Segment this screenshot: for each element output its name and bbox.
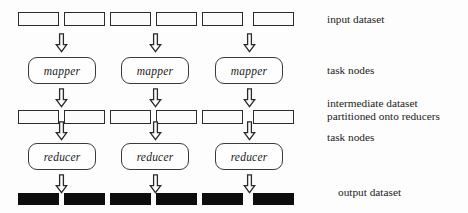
input-block bbox=[253, 12, 294, 26]
intermediate-block bbox=[253, 110, 294, 124]
intermediate-block bbox=[110, 110, 151, 124]
annotation-output-dataset: output dataset bbox=[338, 186, 401, 200]
down-arrow-icon bbox=[55, 121, 68, 141]
input-block bbox=[156, 12, 197, 26]
intermediate-block bbox=[156, 110, 197, 124]
mapreduce-dataflow-diagram: mapper mapper mapper reducer bbox=[0, 0, 468, 213]
annotation-task-nodes-reducers: task nodes bbox=[327, 131, 374, 145]
down-arrow-icon bbox=[55, 88, 68, 108]
mapper-node-label: mapper bbox=[137, 65, 173, 77]
output-block bbox=[64, 193, 105, 205]
output-block bbox=[110, 193, 151, 205]
mapper-node-label: mapper bbox=[231, 65, 267, 77]
output-block bbox=[156, 193, 197, 205]
mapper-node-label: mapper bbox=[44, 65, 80, 77]
down-arrow-icon bbox=[243, 174, 256, 194]
annotation-intermediate-dataset-line1: intermediate dataset bbox=[327, 97, 418, 111]
reducer-node[interactable]: reducer bbox=[121, 143, 189, 170]
input-block bbox=[202, 12, 243, 26]
reducer-node[interactable]: reducer bbox=[28, 143, 96, 170]
reducer-node[interactable]: reducer bbox=[215, 143, 283, 170]
mapper-node[interactable]: mapper bbox=[215, 57, 283, 84]
input-block bbox=[64, 12, 105, 26]
intermediate-block bbox=[18, 110, 59, 124]
input-block bbox=[18, 12, 59, 26]
down-arrow-icon bbox=[243, 121, 256, 141]
down-arrow-icon bbox=[55, 174, 68, 194]
mapper-node[interactable]: mapper bbox=[121, 57, 189, 84]
down-arrow-icon bbox=[243, 33, 256, 53]
annotation-task-nodes-mappers: task nodes bbox=[327, 64, 374, 78]
reducer-node-label: reducer bbox=[44, 151, 81, 163]
output-block bbox=[253, 193, 294, 205]
down-arrow-icon bbox=[149, 88, 162, 108]
annotation-input-dataset: input dataset bbox=[327, 13, 384, 27]
annotation-intermediate-dataset-line2: partitioned onto reducers bbox=[327, 110, 440, 124]
down-arrow-icon bbox=[243, 88, 256, 108]
intermediate-block bbox=[64, 110, 105, 124]
down-arrow-icon bbox=[149, 33, 162, 53]
intermediate-block bbox=[202, 110, 243, 124]
input-block bbox=[110, 12, 151, 26]
reducer-node-label: reducer bbox=[137, 151, 174, 163]
down-arrow-icon bbox=[149, 121, 162, 141]
output-block bbox=[202, 193, 243, 205]
mapper-node[interactable]: mapper bbox=[28, 57, 96, 84]
output-block bbox=[18, 193, 59, 205]
down-arrow-icon bbox=[55, 33, 68, 53]
down-arrow-icon bbox=[149, 174, 162, 194]
reducer-node-label: reducer bbox=[231, 151, 268, 163]
